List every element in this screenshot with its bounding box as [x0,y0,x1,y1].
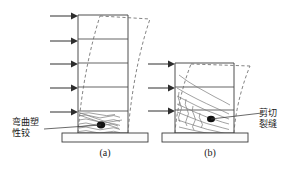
shear-crack-label: 剪切 裂缝 [259,108,277,130]
panel-b-base-slab [162,133,248,142]
panel-a-base-slab [62,133,148,142]
canvas-background [0,0,297,169]
structural-failure-diagram: 弯曲塑 性铰 剪切 裂缝 (a) (b) [0,0,297,169]
shear-crack-label-line1: 剪切 [259,108,277,119]
flexural-plastic-hinge-label: 弯曲塑 性铰 [12,117,39,139]
diagram-canvas [0,0,297,169]
flexural-hinge-label-line2: 性铰 [12,128,39,139]
caption-b: (b) [189,147,231,158]
caption-a: (a) [84,147,126,158]
flexural-hinge-label-line1: 弯曲塑 [12,117,39,128]
shear-crack-label-line2: 裂缝 [259,119,277,130]
